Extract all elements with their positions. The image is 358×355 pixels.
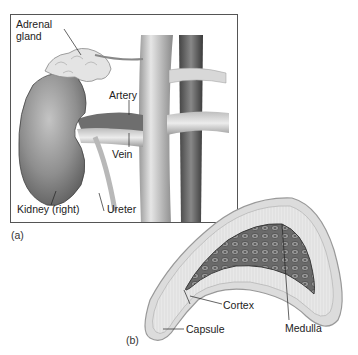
artery-label: Artery (109, 89, 137, 101)
kidney-label: Kidney (right) (17, 203, 79, 215)
cortex-label: Cortex (223, 299, 254, 311)
panel-a-kidney-illustration: Adrenal gland Artery Vein Kidney (right)… (10, 14, 238, 223)
adrenal-gland-label-line1: Adrenal (16, 18, 52, 30)
panel-b-label: (b) (126, 334, 139, 346)
panel-a-label: (a) (11, 229, 24, 241)
adrenal-gland-label-line2: gland (16, 30, 42, 42)
capsule-label: Capsule (186, 323, 225, 335)
kidney-illustration (11, 15, 238, 223)
vein-label: Vein (112, 148, 132, 160)
ureter-label: Ureter (107, 203, 136, 215)
medulla-label: Medulla (285, 322, 322, 334)
